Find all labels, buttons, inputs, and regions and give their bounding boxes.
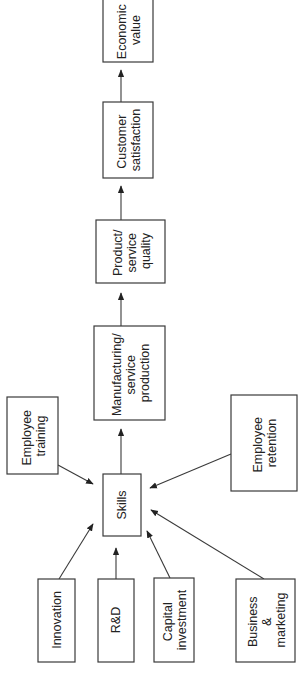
edge-innovation-to-skills bbox=[59, 524, 93, 579]
node-employee-retention: Employee retention bbox=[231, 395, 297, 491]
node-capital-investment: Capital investment bbox=[154, 578, 194, 662]
node-employee-training: Employee training bbox=[7, 397, 58, 474]
node-innovation: Innovation bbox=[38, 579, 75, 662]
node-label-line: training bbox=[34, 415, 48, 456]
svg-text:Product/ service q: Product/ service quality bbox=[111, 226, 153, 276]
node-business-marketing: Business & marketing bbox=[236, 579, 295, 662]
node-label-line: satisfaction bbox=[129, 109, 143, 172]
node-label-line: Employee bbox=[251, 417, 265, 473]
svg-text:Innovation: Innovation bbox=[50, 591, 64, 649]
svg-text:R&D: R&D bbox=[109, 607, 123, 633]
flow-diagram: Economic value Customer satisfaction Pro… bbox=[0, 0, 298, 682]
svg-text:Skills: Skills bbox=[115, 490, 129, 519]
node-customer-satisfaction: Customer satisfaction bbox=[103, 102, 153, 178]
node-label-line: retention bbox=[265, 419, 279, 468]
edge-capital-to-skills bbox=[147, 531, 170, 578]
node-label-line: Manufacturing/ bbox=[110, 333, 124, 416]
node-label-line: quality bbox=[139, 232, 153, 269]
node-label-line: Product/ bbox=[111, 229, 125, 276]
node-label-line: value bbox=[129, 15, 143, 45]
node-label-line: & bbox=[260, 617, 274, 626]
node-label-line: service bbox=[125, 233, 139, 273]
edges bbox=[58, 70, 264, 579]
svg-text:Customer satisfaction: Customer satisfaction bbox=[115, 109, 143, 172]
node-label-line: Skills bbox=[115, 490, 129, 519]
node-label-line: investment bbox=[175, 589, 189, 650]
node-economic-value: Economic value bbox=[103, 0, 153, 62]
node-label-line: Customer bbox=[115, 115, 129, 169]
node-label-line: Economic bbox=[115, 4, 129, 59]
node-label-line: Capital bbox=[161, 602, 175, 641]
node-label-line: service bbox=[124, 355, 138, 395]
node-label-line: production bbox=[138, 344, 152, 402]
node-label-line: marketing bbox=[274, 593, 288, 648]
edge-training-to-skills bbox=[58, 465, 93, 484]
node-rnd: R&D bbox=[98, 579, 134, 662]
node-product-service-quality: Product/ service quality bbox=[96, 220, 165, 283]
node-label-line: Innovation bbox=[50, 591, 64, 649]
node-label-line: R&D bbox=[109, 607, 123, 633]
svg-text:Employee retention: Employee retention bbox=[251, 413, 279, 472]
node-label-line: Business bbox=[246, 596, 260, 647]
node-label-line: Employee bbox=[20, 410, 34, 466]
node-manufacturing-service-production: Manufacturing/ service production bbox=[94, 326, 165, 420]
node-skills: Skills bbox=[103, 474, 141, 536]
edge-retention-to-skills bbox=[150, 454, 231, 488]
edge-business-to-skills bbox=[151, 510, 264, 579]
